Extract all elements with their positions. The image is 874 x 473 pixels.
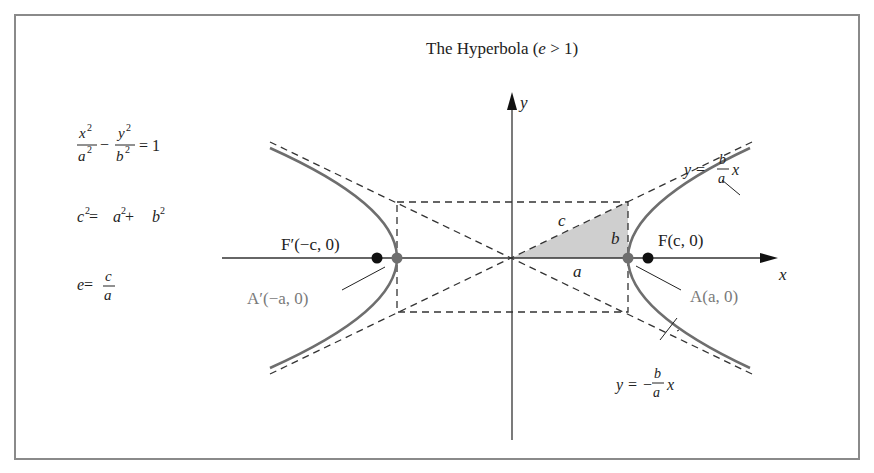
svg-text:b: b — [116, 148, 124, 164]
focus-left-dot — [372, 253, 383, 264]
vertex-right-label: A(a, 0) — [690, 287, 738, 306]
x-axis-arrow-icon — [760, 253, 778, 263]
vertex-right-dot — [623, 253, 634, 264]
vertex-left-leader — [342, 267, 385, 290]
svg-text:a: a — [78, 148, 86, 164]
vertex-left-dot — [392, 253, 403, 264]
svg-text:a: a — [653, 385, 660, 400]
svg-text:y: y — [116, 125, 125, 141]
svg-text:= 1: = 1 — [139, 137, 160, 154]
svg-text:a: a — [113, 208, 121, 225]
svg-text:x: x — [731, 161, 739, 178]
segment-a-label: a — [573, 262, 582, 281]
svg-text:=: = — [84, 276, 93, 293]
svg-text:x: x — [78, 125, 86, 141]
svg-text:b: b — [152, 208, 160, 225]
svg-text:+: + — [125, 208, 134, 225]
svg-text:−: − — [100, 136, 109, 153]
standard-form-equation: x 2 a 2 − y 2 b 2 = 1 — [77, 122, 160, 164]
vertex-right-leader — [636, 266, 681, 290]
svg-text:2: 2 — [87, 144, 92, 155]
y-axis-label: y — [518, 93, 528, 112]
diagram-title: The Hyperbola (e > 1) — [426, 39, 578, 58]
focus-right-label: F(c, 0) — [658, 231, 703, 250]
hyperbola-diagram: The Hyperbola (e > 1) x 2 a 2 − y 2 b 2 … — [0, 0, 874, 473]
svg-text:x: x — [666, 376, 674, 393]
svg-text:c: c — [77, 208, 84, 225]
svg-text:2: 2 — [126, 122, 131, 133]
focal-relation-equation: c 2 = a 2 + b 2 — [77, 205, 165, 225]
segment-c-label: c — [558, 211, 566, 230]
svg-text:2: 2 — [160, 205, 165, 216]
svg-text:2: 2 — [125, 144, 130, 155]
asymptote-negative-label: y = − b a x — [614, 366, 674, 400]
svg-text:y = −: y = − — [614, 376, 653, 394]
svg-text:2: 2 — [87, 122, 92, 133]
svg-text:y =: y = — [682, 161, 706, 179]
segment-b-label: b — [611, 229, 620, 248]
asymptote-positive-leader — [722, 180, 740, 195]
focus-left-label: F′(−c, 0) — [281, 235, 340, 254]
eccentricity-equation: e = c a — [77, 268, 115, 303]
svg-text:b: b — [654, 366, 661, 381]
svg-text:=: = — [89, 208, 98, 225]
svg-text:a: a — [104, 287, 112, 303]
svg-text:b: b — [719, 152, 726, 167]
svg-text:c: c — [105, 268, 112, 284]
focus-right-dot — [643, 253, 654, 264]
vertex-left-label: A′(−a, 0) — [247, 289, 308, 308]
x-axis-label: x — [778, 265, 787, 284]
svg-text:a: a — [718, 171, 725, 186]
y-axis-arrow-icon — [507, 92, 517, 110]
